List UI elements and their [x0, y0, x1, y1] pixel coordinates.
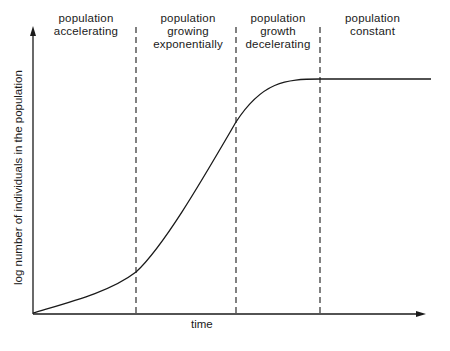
growth-curve-diagram	[0, 0, 450, 351]
x-axis-label: time	[191, 318, 213, 330]
growth-curve	[33, 79, 431, 313]
phase-label-constant: population constant	[325, 12, 420, 38]
x-axis-arrowhead	[416, 311, 426, 317]
phase-label-decelerating: population growth decelerating	[238, 12, 318, 51]
y-axis-arrowhead	[30, 26, 36, 36]
phase-label-accelerating: population accelerating	[40, 12, 132, 38]
phase-label-exponential: population growing exponentially	[142, 12, 234, 51]
y-axis-label: log number of individuals in the populat…	[12, 70, 24, 285]
